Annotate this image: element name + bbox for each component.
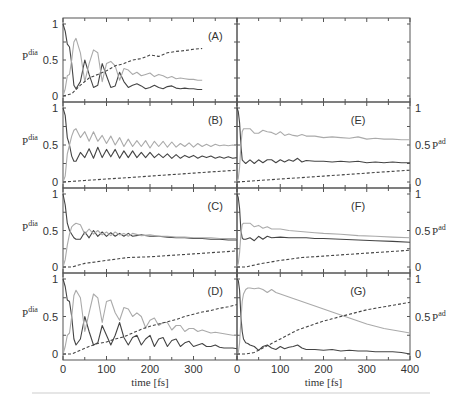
y-tick-label: 0.5 [43, 225, 58, 237]
series-line-light-E [237, 129, 410, 182]
y-tick-label-right: 0 [415, 261, 421, 273]
series-line-dashed-F [237, 250, 410, 267]
panel-label-G: (G) [350, 285, 366, 297]
y-tick-label: 0.5 [43, 139, 58, 151]
x-tick-label: 100 [97, 363, 115, 375]
chart-figure: 00.51Pdia(A)00.51Pdia(B)00.51Pad(E)00.51… [0, 0, 463, 402]
panel-label-C: (C) [208, 200, 223, 212]
x-tick-label: 200 [141, 363, 159, 375]
figure-caption-faded [32, 391, 432, 395]
y-tick-label: 0 [52, 176, 58, 188]
x-tick-label: 400 [401, 363, 419, 375]
y-tick-label: 0 [52, 261, 58, 273]
series-line-dashed-C [63, 251, 237, 267]
x-tick-label: 0 [60, 363, 66, 375]
x-axis-title: time [fs] [131, 376, 169, 388]
y-axis-title-right: Pad [432, 137, 446, 151]
y-axis-title-right: Pad [432, 223, 446, 237]
y-axis-title-left: Pdia [22, 48, 38, 62]
x-tick-label: 300 [358, 363, 376, 375]
panel-frame-5 [237, 188, 410, 273]
y-tick-label: 0 [52, 348, 58, 360]
panel-frame-1 [237, 18, 410, 102]
series-line-light-F [237, 223, 410, 267]
panel-frame-3 [237, 102, 410, 188]
series-line-dark-E [237, 108, 410, 164]
series-line-light-G [237, 288, 410, 354]
y-tick-label: 0.5 [43, 54, 58, 66]
x-tick-label: 300 [184, 363, 202, 375]
y-tick-label: 1 [52, 102, 58, 114]
y-tick-label: 0.5 [43, 311, 58, 323]
y-tick-label-right: 0.5 [415, 225, 430, 237]
y-tick-label: 1 [52, 18, 58, 30]
series-line-dashed-E [237, 170, 410, 182]
series-line-dashed-B [63, 170, 237, 182]
x-axis-title: time [fs] [305, 376, 343, 388]
y-tick-label: 0 [52, 90, 58, 102]
y-tick-label-right: 0.5 [415, 311, 430, 323]
series-line-dark-F [237, 194, 410, 242]
y-axis-title-left: Pdia [22, 133, 38, 147]
y-axis-title-right: Pad [432, 309, 446, 323]
series-line-light-C [63, 223, 237, 267]
y-tick-label-right: 0 [415, 176, 421, 188]
x-tick-label: 0 [234, 363, 240, 375]
panel-label-A: (A) [208, 30, 223, 42]
y-tick-label-right: 1 [415, 273, 421, 285]
y-tick-label: 1 [52, 188, 58, 200]
series-line-dark-A [63, 24, 202, 90]
x-tick-label: 100 [271, 363, 289, 375]
panel-label-F: (F) [351, 200, 365, 212]
y-tick-label-right: 0 [415, 348, 421, 360]
panel-label-B: (B) [208, 114, 223, 126]
x-tick-label: 200 [314, 363, 332, 375]
y-tick-label-right: 1 [415, 102, 421, 114]
panel-label-E: (E) [351, 114, 366, 126]
y-tick-label: 1 [52, 273, 58, 285]
y-axis-title-left: Pdia [22, 305, 38, 319]
y-tick-label-right: 1 [415, 188, 421, 200]
series-line-dark-G [237, 279, 410, 354]
series-line-light-B [63, 129, 237, 182]
panel-label-D: (D) [208, 285, 223, 297]
series-line-light-D [63, 290, 237, 354]
y-tick-label-right: 0.5 [415, 139, 430, 151]
y-axis-title-left: Pdia [22, 219, 38, 233]
